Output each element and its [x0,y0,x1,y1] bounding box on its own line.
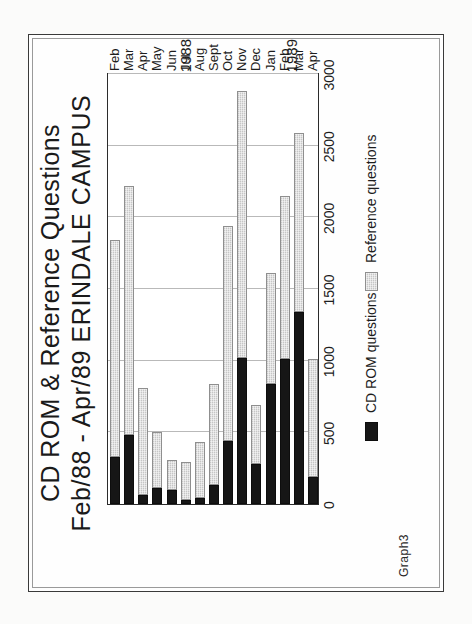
bar-segment-cd-rom [110,457,120,504]
value-axis-tick: 500 [321,422,337,445]
category-axis-tick: Sept [206,44,221,71]
bar-segment-reference [181,462,191,499]
bar-segment-cd-rom [167,490,177,504]
bar-row [181,74,191,504]
bar-segment-reference [251,405,261,464]
bar-row [110,74,120,504]
category-axis-tick: Nov [234,48,249,71]
category-axis-tick: Feb [107,49,122,71]
rotated-chart-container: CD ROM & Reference Questions Feb/88 - Ap… [29,35,443,591]
chart-legend: CD ROM questionsReference questions [359,41,419,441]
chart-title-block: CD ROM & Reference Questions Feb/88 - Ap… [35,35,96,591]
bar-row [280,74,290,504]
bar-row [223,74,233,504]
bar-segment-reference [110,240,120,456]
year-group-label: 1988 [176,39,193,72]
value-axis-tick: 0 [321,501,337,509]
category-axis-tick: Aug [191,48,206,71]
bar-segment-reference [280,196,290,359]
legend-label: Reference questions [363,135,379,263]
bar-segment-reference [195,442,205,498]
bar-segment-reference [209,384,219,486]
bar-row [237,74,247,504]
bar-row [251,74,261,504]
bar-segment-cd-rom [223,441,233,504]
bar-row [294,74,304,504]
bar-segment-cd-rom [280,359,290,504]
bar-segment-cd-rom [237,358,247,504]
legend-item[interactable]: Reference questions [363,135,379,291]
chart-title: CD ROM & Reference Questions [35,35,66,591]
category-axis-tick: Jan [262,50,277,71]
value-axis-tick: 3000 [321,59,337,90]
bar-row [124,74,134,504]
value-axis-tick: 2000 [321,203,337,234]
bar-row [308,74,318,504]
bar-segment-reference [237,91,247,358]
bar-segment-reference [138,388,148,496]
bar-segment-cd-rom [294,312,304,504]
bar-segment-reference [308,359,318,477]
bar-segment-cd-rom [138,495,148,504]
category-axis-tick: Oct [220,51,235,71]
bar-segment-reference [294,133,304,312]
legend-swatch-icon [365,272,378,291]
bar-segment-cd-rom [266,384,276,504]
bar-row [266,74,276,504]
value-axis: 050010001500200025003000 [321,73,347,505]
chart-subtitle: Feb/88 - Apr/89 ERINDALE CAMPUS [66,35,97,591]
bar-segment-cd-rom [209,485,219,504]
legend-swatch-icon [365,422,378,441]
bar-segment-cd-rom [308,477,318,504]
bar-row [209,74,219,504]
category-axis-tick: Apr [135,51,150,71]
bar-row [195,74,205,504]
category-axis-tick: May [149,46,164,71]
bar-segment-cd-rom [152,488,162,504]
bar-segment-cd-rom [195,498,205,504]
bar-row [167,74,177,504]
page-border: CD ROM & Reference Questions Feb/88 - Ap… [28,34,444,592]
category-axis-tick: Mar [121,49,136,71]
bar-segment-reference [266,273,276,383]
bar-segment-reference [124,186,134,435]
value-axis-tick: 1000 [321,346,337,377]
bar-segment-reference [223,226,233,441]
bar-row [152,74,162,504]
bar-segment-cd-rom [181,500,191,504]
plot-area [107,73,319,505]
scanned-page: CD ROM & Reference Questions Feb/88 - Ap… [0,0,472,624]
legend-item[interactable]: CD ROM questions [363,292,379,441]
category-axis-tick: Dec [248,48,263,71]
value-axis-tick: 1500 [321,274,337,305]
category-axis-tick: Apr [304,51,319,71]
bar-segment-cd-rom [251,464,261,504]
bar-segment-cd-rom [124,435,134,504]
figure-caption: Graph3 [397,534,411,577]
year-group-label: 1989 [282,39,299,72]
bar-segment-reference [152,432,162,488]
bar-segment-reference [167,460,177,490]
bar-row [138,74,148,504]
chart-sheet: CD ROM & Reference Questions Feb/88 - Ap… [29,35,443,591]
value-axis-tick: 2500 [321,131,337,162]
legend-label: CD ROM questions [363,292,379,413]
